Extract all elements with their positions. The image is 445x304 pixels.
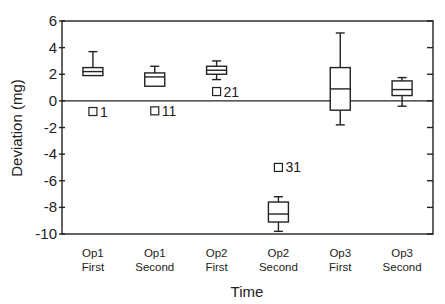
y-axis-title: Deviation (mg)	[8, 79, 25, 177]
x-category-label: Op1	[82, 247, 104, 259]
x-category-sublabel: First	[205, 261, 228, 273]
x-category-sublabel: First	[329, 261, 352, 273]
x-category-label: Op3	[391, 247, 413, 259]
box-6	[392, 78, 412, 107]
outlier-marker	[89, 108, 97, 116]
x-category-sublabel: Second	[135, 261, 174, 273]
box-plot-chart: 6420-2-4-6-8-10 1112131 Op1FirstOp1Secon…	[0, 0, 445, 304]
x-category-sublabel: Second	[383, 261, 422, 273]
y-axis: 6420-2-4-6-8-10	[35, 12, 433, 242]
box-2: 11	[145, 66, 177, 119]
y-tick-label: 0	[49, 92, 57, 109]
y-tick-label: 4	[49, 39, 57, 56]
outlier-label: 21	[224, 84, 240, 100]
iqr-box	[268, 202, 288, 222]
y-tick-label: 2	[49, 65, 57, 82]
iqr-box	[392, 81, 412, 96]
y-tick-label: 6	[49, 12, 57, 29]
x-category-sublabel: First	[82, 261, 105, 273]
outlier-label: 31	[285, 159, 301, 175]
x-category-label: Op3	[329, 247, 351, 259]
box-4: 31	[268, 159, 301, 231]
y-tick-label: -4	[44, 145, 57, 162]
y-tick-label: -2	[44, 119, 57, 136]
x-category-label: Op1	[144, 247, 166, 259]
outlier-marker	[151, 107, 159, 115]
iqr-box	[145, 73, 165, 86]
box-3: 21	[207, 61, 240, 100]
box-5	[330, 33, 350, 125]
x-axis-categories: Op1FirstOp1SecondOp2FirstOp2SecondOp3Fir…	[82, 247, 422, 273]
box-1: 1	[83, 52, 108, 120]
outlier-marker	[213, 88, 221, 96]
y-tick-label: -10	[35, 225, 57, 242]
x-category-label: Op2	[206, 247, 228, 259]
outlier-marker	[274, 163, 282, 171]
x-axis-title: Time	[231, 283, 264, 300]
x-category-label: Op2	[268, 247, 290, 259]
y-tick-label: -6	[44, 172, 57, 189]
outlier-label: 11	[162, 103, 177, 119]
x-category-sublabel: Second	[259, 261, 298, 273]
plot-border	[62, 21, 433, 234]
box-series: 1112131	[83, 33, 412, 231]
plot-frame	[62, 21, 433, 234]
y-tick-label: -8	[44, 198, 57, 215]
outlier-label: 1	[100, 104, 108, 120]
